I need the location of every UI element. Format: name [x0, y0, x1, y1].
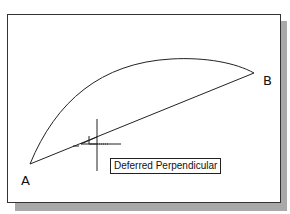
drawing-viewport[interactable]: A B Deferred Perpendicular: [7, 14, 281, 203]
point-a-label: A: [21, 173, 30, 188]
osnap-tooltip: Deferred Perpendicular: [110, 158, 221, 174]
point-b-label: B: [263, 73, 272, 88]
line-ab[interactable]: [30, 73, 254, 164]
arc-curve[interactable]: [30, 59, 254, 164]
